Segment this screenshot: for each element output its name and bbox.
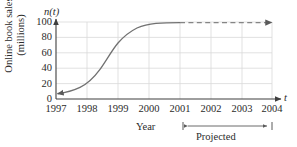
x-tick-label-2004: 2004 [255, 104, 289, 115]
x-axis-title: Year [136, 121, 155, 132]
projected-span-label: Projected [196, 131, 236, 142]
grid-lines-vertical [87, 22, 272, 99]
x-tick-label-2002: 2002 [194, 104, 228, 115]
projected-span-bracket [183, 122, 272, 130]
y-axis-title: Online book sales (millions) [3, 0, 29, 87]
x-tick-label-2000: 2000 [132, 104, 166, 115]
chart-figure: Online book sales (millions) n(t) t 100 … [0, 0, 297, 147]
y-axis-title-line1: Online book sales [3, 0, 15, 87]
x-tick-label-2003: 2003 [225, 104, 259, 115]
curve-start-arrowhead [58, 93, 65, 94]
y-tick-label-80: 80 [26, 32, 52, 43]
grid-lines-horizontal [56, 22, 272, 84]
y-axis-title-line2: (millions) [15, 0, 27, 87]
y-tick-label-40: 40 [26, 63, 52, 74]
x-axis-symbol: t [284, 92, 287, 103]
series-actual-curve [58, 23, 180, 94]
y-tick-label-100: 100 [26, 17, 52, 28]
x-tick-label-2001: 2001 [163, 104, 197, 115]
x-tick-label-1997: 1997 [39, 104, 73, 115]
x-tick-label-1998: 1998 [70, 104, 104, 115]
x-tick-label-1999: 1999 [101, 104, 135, 115]
y-tick-label-60: 60 [26, 48, 52, 59]
y-tick-label-20: 20 [26, 79, 52, 90]
